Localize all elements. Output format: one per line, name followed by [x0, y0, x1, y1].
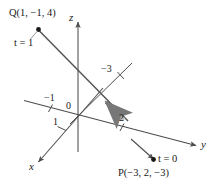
y-axis-label: y [201, 139, 206, 150]
tick-label-one-x: 1 [53, 117, 58, 127]
point-q-dot [36, 27, 41, 32]
tick-label-neg-one-y: −1 [44, 93, 55, 103]
tick-label-two-y: 2 [119, 113, 124, 123]
point-p-parameter-label: t = 0 [158, 154, 177, 165]
line-in-3d-figure: Q(1, −1, 4) t = 1 P(−3, 2, −3) t = 0 z y… [0, 0, 216, 193]
origin-label: 0 [66, 101, 71, 111]
point-p-label: P(−3, 2, −3) [118, 168, 169, 179]
point-p-dot [151, 157, 156, 162]
x-axis-label: x [29, 161, 34, 172]
z-axis-label: z [69, 12, 73, 23]
point-q-parameter-label: t = 1 [14, 38, 33, 49]
leader-to-p [131, 139, 154, 159]
tick-label-neg-three-z: −3 [101, 64, 112, 74]
point-q-label: Q(1, −1, 4) [9, 8, 56, 19]
